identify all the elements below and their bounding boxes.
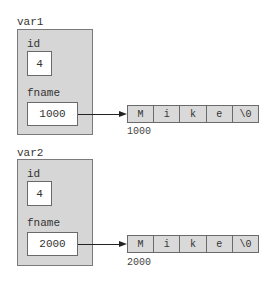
var2-id-value: 4 <box>27 181 52 206</box>
char-cell: k <box>180 106 206 122</box>
char-cell: M <box>128 106 154 122</box>
var1-label: var1 <box>17 16 43 28</box>
var2-char-array: M i k e \0 <box>127 235 259 253</box>
var1-address-label: 1000 <box>127 126 151 137</box>
var2-label: var2 <box>17 147 43 159</box>
var1-id-label: id <box>27 38 40 50</box>
var1-fname-value: 1000 <box>27 102 78 126</box>
var2-arrow-head-icon <box>119 241 127 247</box>
char-cell: \0 <box>233 236 258 252</box>
var2-pointer-arrow <box>78 244 120 245</box>
char-cell: i <box>154 236 180 252</box>
var2-fname-value: 2000 <box>27 232 78 256</box>
var2-fname-label: fname <box>27 217 60 229</box>
char-cell: k <box>180 236 206 252</box>
var2-id-label: id <box>27 168 40 180</box>
char-cell: e <box>207 236 233 252</box>
var1-char-array: M i k e \0 <box>127 105 259 123</box>
var1-pointer-arrow <box>78 114 120 115</box>
var2-address-label: 2000 <box>127 257 151 268</box>
var1-arrow-head-icon <box>119 111 127 117</box>
var1-fname-label: fname <box>27 87 60 99</box>
char-cell: \0 <box>233 106 258 122</box>
char-cell: i <box>154 106 180 122</box>
char-cell: e <box>207 106 233 122</box>
char-cell: M <box>128 236 154 252</box>
var1-id-value: 4 <box>27 51 52 76</box>
